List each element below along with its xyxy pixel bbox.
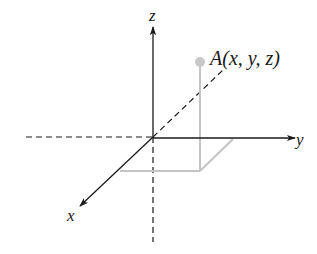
point-a-label: A(x, y, z) <box>210 48 280 68</box>
coordinate-diagram <box>0 0 317 254</box>
projection-y-line <box>200 139 233 171</box>
z-axis-label: z <box>149 7 156 24</box>
x-axis-label: x <box>67 207 75 224</box>
point-a-marker <box>195 57 205 67</box>
negative-x-axis-dashed <box>153 70 223 137</box>
y-axis-label: y <box>296 131 304 148</box>
